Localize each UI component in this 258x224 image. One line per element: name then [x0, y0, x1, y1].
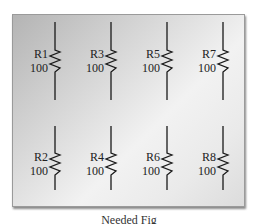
label-r2: R2 [34, 150, 48, 164]
resistor-r8 [218, 126, 228, 190]
resistor-r3 [106, 22, 116, 100]
value-r2: 100 [30, 164, 48, 178]
value-r7: 100 [198, 61, 216, 75]
label-r6: R6 [146, 150, 160, 164]
value-r1: 100 [30, 61, 48, 75]
resistor-r7 [218, 22, 228, 100]
resistor-r1 [50, 22, 60, 100]
resistor-r2 [50, 126, 60, 190]
label-r7: R7 [202, 47, 216, 61]
resistor-r5 [162, 22, 172, 100]
value-r5: 100 [142, 61, 160, 75]
figure-caption: Needed Fig [0, 213, 258, 224]
resistor-schematic: R1 100 R3 100 R5 100 R7 100 R2 100 R4 10… [0, 0, 258, 224]
value-r3: 100 [86, 61, 104, 75]
value-r8: 100 [198, 164, 216, 178]
label-r4: R4 [90, 150, 104, 164]
value-r6: 100 [142, 164, 160, 178]
label-r5: R5 [146, 47, 160, 61]
value-r4: 100 [86, 164, 104, 178]
label-r3: R3 [90, 47, 104, 61]
resistor-r4 [106, 126, 116, 190]
resistor-r6 [162, 126, 172, 190]
label-r1: R1 [34, 47, 48, 61]
label-r8: R8 [202, 150, 216, 164]
